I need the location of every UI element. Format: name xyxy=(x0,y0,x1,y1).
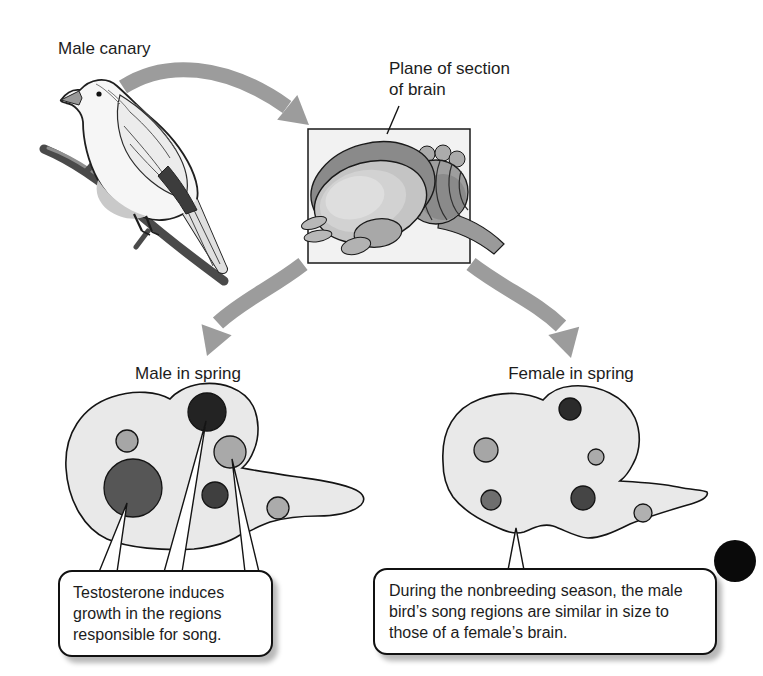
male-canary-label: Male canary xyxy=(58,38,151,59)
female-in-spring-label: Female in spring xyxy=(491,363,651,384)
female-song-region-dark-top xyxy=(559,398,581,420)
male-brain-section xyxy=(66,383,364,549)
page-bullet-dot xyxy=(714,540,756,582)
male-song-region-mid-right xyxy=(214,436,246,468)
bird-illustration xyxy=(44,80,227,281)
female-callout-box: During the nonbreeding season, the male … xyxy=(373,568,717,655)
figure-canvas: Male canary Plane of section of brain Ma… xyxy=(0,0,763,676)
female-song-region-tail-right xyxy=(634,504,652,522)
male-callout-box: Testosterone induces growth in the regio… xyxy=(58,570,273,657)
female-callout-text: During the nonbreeding season, the male … xyxy=(389,580,701,643)
pointer-female-section xyxy=(508,528,524,570)
female-brain-section xyxy=(443,386,708,538)
male-in-spring-label: Male in spring xyxy=(108,363,268,384)
arrow-to-female-section xyxy=(471,264,586,362)
male-song-region-lower-mid xyxy=(202,482,228,508)
plane-of-section-label: Plane of section of brain xyxy=(389,58,549,100)
female-song-region-small-mid xyxy=(588,449,604,465)
male-song-region-large-left xyxy=(104,459,162,517)
male-song-region-tail-right xyxy=(267,497,289,519)
male-song-region-small-upper-left xyxy=(116,430,138,452)
male-callout-text: Testosterone induces growth in the regio… xyxy=(73,582,258,645)
arrow-to-male-section xyxy=(192,264,303,361)
female-song-region-lower-mid xyxy=(571,486,595,510)
female-song-region-lower-left xyxy=(481,490,501,510)
eye xyxy=(96,91,101,96)
female-song-region-left xyxy=(474,438,498,462)
male-song-region-dark-top xyxy=(188,393,226,431)
